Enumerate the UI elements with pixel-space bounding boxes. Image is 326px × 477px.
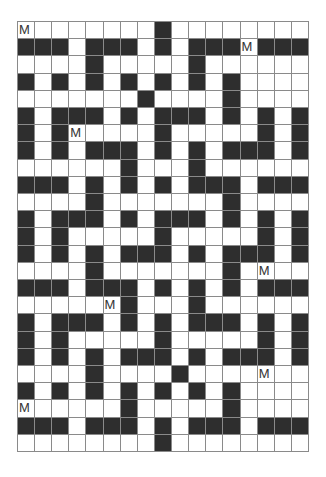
white-square[interactable] xyxy=(69,418,85,434)
white-square[interactable] xyxy=(223,228,239,244)
white-square[interactable] xyxy=(223,435,239,451)
white-square[interactable] xyxy=(292,91,308,107)
white-square[interactable] xyxy=(104,400,120,416)
white-square[interactable] xyxy=(69,160,85,176)
white-square[interactable] xyxy=(223,297,239,313)
white-square[interactable] xyxy=(172,142,188,158)
white-square[interactable] xyxy=(172,263,188,279)
white-square[interactable]: M xyxy=(104,297,120,313)
white-square[interactable] xyxy=(292,74,308,90)
white-square[interactable] xyxy=(241,280,257,296)
white-square[interactable] xyxy=(52,263,68,279)
white-square[interactable] xyxy=(275,142,291,158)
white-square[interactable] xyxy=(206,108,222,124)
white-square[interactable] xyxy=(18,160,34,176)
white-square[interactable] xyxy=(86,22,102,38)
white-square[interactable] xyxy=(86,91,102,107)
white-square[interactable] xyxy=(104,74,120,90)
white-square[interactable] xyxy=(189,366,205,382)
white-square[interactable] xyxy=(241,125,257,141)
white-square[interactable] xyxy=(104,314,120,330)
white-square[interactable] xyxy=(35,56,51,72)
white-square[interactable] xyxy=(258,91,274,107)
white-square[interactable] xyxy=(18,297,34,313)
white-square[interactable] xyxy=(206,366,222,382)
white-square[interactable] xyxy=(138,211,154,227)
white-square[interactable] xyxy=(104,22,120,38)
white-square[interactable] xyxy=(206,332,222,348)
white-square[interactable] xyxy=(121,228,137,244)
white-square[interactable] xyxy=(223,125,239,141)
white-square[interactable] xyxy=(206,280,222,296)
white-square[interactable] xyxy=(35,91,51,107)
white-square[interactable] xyxy=(241,211,257,227)
white-square[interactable] xyxy=(35,297,51,313)
white-square[interactable] xyxy=(138,160,154,176)
white-square[interactable] xyxy=(86,160,102,176)
white-square[interactable] xyxy=(292,297,308,313)
white-square[interactable] xyxy=(275,263,291,279)
white-square[interactable] xyxy=(138,39,154,55)
white-square[interactable] xyxy=(241,400,257,416)
white-square[interactable] xyxy=(241,160,257,176)
white-square[interactable] xyxy=(241,194,257,210)
white-square[interactable] xyxy=(275,246,291,262)
white-square[interactable] xyxy=(241,56,257,72)
white-square[interactable] xyxy=(275,383,291,399)
white-square[interactable] xyxy=(155,297,171,313)
white-square[interactable] xyxy=(275,314,291,330)
white-square[interactable] xyxy=(172,194,188,210)
white-square[interactable] xyxy=(206,142,222,158)
white-square[interactable] xyxy=(275,228,291,244)
white-square[interactable] xyxy=(172,349,188,365)
white-square[interactable] xyxy=(275,400,291,416)
white-square[interactable] xyxy=(189,125,205,141)
white-square[interactable] xyxy=(121,263,137,279)
white-square[interactable] xyxy=(35,400,51,416)
white-square[interactable] xyxy=(121,22,137,38)
white-square[interactable] xyxy=(86,435,102,451)
white-square[interactable] xyxy=(241,332,257,348)
white-square[interactable] xyxy=(69,91,85,107)
white-square[interactable] xyxy=(18,366,34,382)
white-square[interactable] xyxy=(52,194,68,210)
white-square[interactable] xyxy=(189,22,205,38)
white-square[interactable] xyxy=(241,314,257,330)
white-square[interactable] xyxy=(206,56,222,72)
white-square[interactable] xyxy=(206,400,222,416)
white-square[interactable] xyxy=(275,22,291,38)
white-square[interactable] xyxy=(35,142,51,158)
white-square[interactable] xyxy=(275,297,291,313)
white-square[interactable] xyxy=(104,194,120,210)
white-square[interactable] xyxy=(86,228,102,244)
white-square[interactable] xyxy=(206,228,222,244)
white-square[interactable] xyxy=(206,383,222,399)
white-square[interactable] xyxy=(104,349,120,365)
white-square[interactable] xyxy=(241,108,257,124)
white-square[interactable] xyxy=(172,125,188,141)
white-square[interactable] xyxy=(69,366,85,382)
white-square[interactable] xyxy=(206,435,222,451)
white-square[interactable] xyxy=(292,383,308,399)
white-square[interactable] xyxy=(172,22,188,38)
white-square[interactable] xyxy=(275,91,291,107)
white-square[interactable] xyxy=(52,366,68,382)
white-square[interactable] xyxy=(138,314,154,330)
white-square[interactable] xyxy=(69,297,85,313)
white-square[interactable] xyxy=(172,383,188,399)
white-square[interactable] xyxy=(275,332,291,348)
white-square[interactable] xyxy=(155,91,171,107)
white-square[interactable] xyxy=(292,435,308,451)
white-square[interactable] xyxy=(104,211,120,227)
white-square[interactable] xyxy=(104,125,120,141)
white-square[interactable] xyxy=(69,246,85,262)
white-square[interactable] xyxy=(275,125,291,141)
white-square[interactable] xyxy=(292,56,308,72)
white-square[interactable] xyxy=(35,332,51,348)
white-square[interactable] xyxy=(241,22,257,38)
white-square[interactable] xyxy=(189,91,205,107)
white-square[interactable] xyxy=(35,108,51,124)
white-square[interactable] xyxy=(241,418,257,434)
white-square[interactable] xyxy=(104,263,120,279)
white-square[interactable] xyxy=(138,297,154,313)
